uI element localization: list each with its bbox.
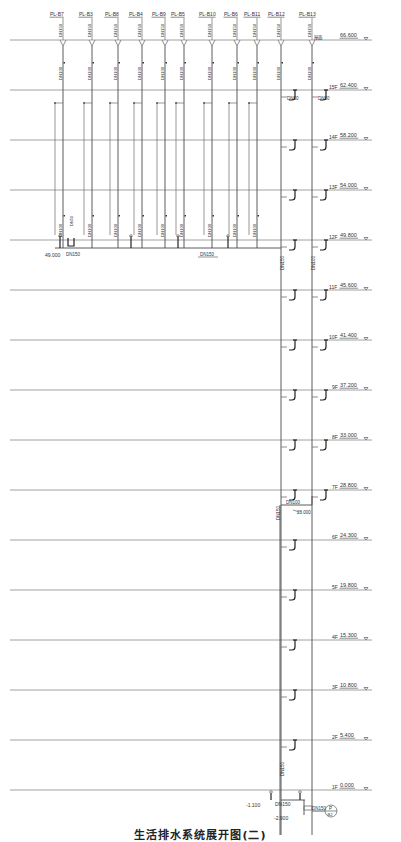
- p-trap-icon: [320, 240, 326, 250]
- floor-label: 13F: [329, 184, 338, 190]
- vent-fitting-icon: [83, 102, 85, 104]
- floor-label: 3F: [332, 684, 338, 690]
- p-trap-icon: [289, 190, 295, 200]
- pipework-layer: [10, 17, 372, 835]
- stack-size: DN100: [232, 66, 237, 80]
- elevation-value: 24.300: [340, 532, 357, 538]
- vent-fitting-icon: [109, 102, 111, 104]
- outlet-fitting-icon: [304, 806, 312, 810]
- outlet-symbol-top: P: [329, 806, 332, 811]
- p-trap-icon: [289, 140, 295, 150]
- stack-id-label: PL-B5: [171, 11, 185, 17]
- vent-cap-icon: [181, 40, 187, 46]
- cleanout-icon: [213, 62, 215, 64]
- stack-id-label: PL-B6: [224, 11, 238, 17]
- stack-id-label: PL-B9: [152, 11, 166, 17]
- stack-top-size: DN150: [87, 23, 92, 37]
- p-trap-icon: [289, 540, 295, 550]
- vent-cap-icon: [60, 40, 66, 46]
- stack-size-lower: DN100: [232, 223, 237, 237]
- stack-top-size: DN150: [276, 23, 281, 37]
- cleanout-icon: [143, 215, 145, 217]
- vent-cap-icon: [254, 40, 260, 46]
- cleanout-icon: [93, 215, 95, 217]
- cleanout-icon: [166, 62, 168, 64]
- lower-riser-size: DN150: [276, 505, 281, 520]
- stack-size-lower: DN100: [207, 223, 212, 237]
- riser-size: DN100: [311, 255, 316, 270]
- trap-fitting-icon: [68, 238, 74, 246]
- elevation-value: 45.600: [340, 282, 357, 288]
- stack-id-label: PL-B12: [268, 11, 285, 17]
- stack-size-lower: DN100: [179, 223, 184, 237]
- floor-label: 5F: [332, 584, 338, 590]
- cleanout-icon: [119, 62, 121, 64]
- elevation-value: 5.400: [340, 732, 354, 738]
- p-trap-icon: [289, 690, 295, 700]
- stack-id-label: PL-B7: [50, 11, 64, 17]
- p-trap-icon: [289, 340, 295, 350]
- elevation-value: 15.300: [340, 632, 357, 638]
- floor-label: 6F: [332, 534, 338, 540]
- elevation-value: 0.000: [340, 782, 354, 788]
- stack-top-size: DN150: [58, 23, 63, 37]
- stack-top-size: DN150: [113, 23, 118, 37]
- base-elevation-1: -1.100: [246, 802, 260, 808]
- cleanout-icon: [143, 62, 145, 64]
- stack-top-size: DN150: [207, 23, 212, 37]
- stack-id-label: PL-B13: [299, 11, 316, 17]
- stack-top-size: DN150: [232, 23, 237, 37]
- stack-id-label: PL-B11: [244, 11, 261, 17]
- floor-label: 10F: [329, 334, 338, 340]
- cleanout-icon: [238, 62, 240, 64]
- cleanout-icon: [64, 62, 66, 64]
- stack-size: DN100: [87, 66, 92, 80]
- stack-size: DN100: [137, 66, 142, 80]
- vent-fitting-icon: [203, 102, 205, 104]
- cleanout-icon: [258, 215, 260, 217]
- stack-top-size: DN150: [179, 23, 184, 37]
- stack-top-size: DN150: [252, 23, 257, 37]
- elevation-value: 10.800: [340, 682, 357, 688]
- vent-cap-icon: [139, 40, 145, 46]
- base-cleanout-cap-icon: [270, 791, 273, 794]
- p-trap-icon: [320, 340, 326, 350]
- p-trap-icon: [320, 190, 326, 200]
- elevation-value: 41.400: [340, 332, 357, 338]
- stack-size: DN100: [207, 66, 212, 80]
- vent-fitting-icon: [175, 102, 177, 104]
- vent-cap-icon: [234, 40, 240, 46]
- p-trap-icon: [320, 440, 326, 450]
- cleanout-icon: [119, 215, 121, 217]
- elevation-value: 19.800: [340, 582, 357, 588]
- cleanout-icon: [185, 215, 187, 217]
- stack-id-label: PL-B8: [105, 11, 119, 17]
- stack-size-lower: DN100: [137, 223, 142, 237]
- floor-label: 14F: [329, 134, 338, 140]
- p-trap-icon: [289, 240, 295, 250]
- vent-cap-icon: [278, 40, 284, 46]
- floor-label: 9F: [332, 384, 338, 390]
- outlet-size: DN150: [312, 806, 327, 811]
- cleanout-icon: [64, 215, 66, 217]
- stack-size: DN100: [113, 66, 118, 80]
- p-trap-icon: [320, 490, 326, 500]
- cleanout-icon: [93, 62, 95, 64]
- vent-cap-icon: [115, 40, 121, 46]
- vent-fitting-icon: [133, 102, 135, 104]
- vent-cap-icon: [309, 40, 315, 46]
- offset-elevation: 28.000: [297, 510, 311, 515]
- vent-fitting-icon: [228, 102, 230, 104]
- cleanout-icon: [258, 62, 260, 64]
- header-elevation: 49.000: [45, 252, 61, 258]
- vent-fitting-icon: [54, 102, 56, 104]
- stack-top-size: DN150: [160, 23, 165, 37]
- floor-label: 2F: [332, 734, 338, 740]
- stack-size-lower: DN100: [87, 223, 92, 237]
- vent-cap-icon: [89, 40, 95, 46]
- stack-size: DN100: [307, 66, 312, 80]
- p-trap-icon: [320, 140, 326, 150]
- branch-size: DN50: [318, 96, 330, 101]
- floor-label: 12F: [329, 234, 338, 240]
- drawing-title: 生活排水系统展开图(二): [0, 826, 401, 842]
